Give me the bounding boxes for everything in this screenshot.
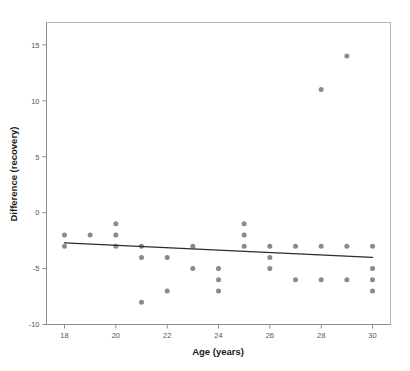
x-tick-label: 22 — [163, 331, 171, 340]
y-tick-label: -10 — [29, 320, 40, 329]
data-point — [190, 244, 195, 249]
data-point — [370, 244, 375, 249]
data-point — [319, 87, 324, 92]
data-point — [165, 288, 170, 293]
y-tick-label: 10 — [31, 97, 39, 106]
x-tick-label: 24 — [214, 331, 222, 340]
data-point — [190, 266, 195, 271]
data-point — [242, 244, 247, 249]
x-tick-label: 26 — [266, 331, 274, 340]
data-point — [113, 244, 118, 249]
y-tick-label: 15 — [31, 41, 39, 50]
data-point — [344, 54, 349, 59]
data-point — [139, 300, 144, 305]
y-axis-title: Difference (recovery) — [8, 126, 19, 221]
scatter-plot-figure: 151050-5-10 18202224262830 Age (years) D… — [0, 0, 410, 371]
data-point — [370, 277, 375, 282]
data-point — [293, 244, 298, 249]
x-axis-title: Age (years) — [192, 346, 244, 357]
y-tick-label: 5 — [35, 153, 39, 162]
data-point — [165, 255, 170, 260]
data-point — [113, 221, 118, 226]
data-point — [267, 244, 272, 249]
data-point — [267, 255, 272, 260]
data-point — [62, 244, 67, 249]
y-tick-label: 0 — [35, 208, 39, 217]
data-point — [293, 277, 298, 282]
data-point — [216, 266, 221, 271]
data-point — [319, 244, 324, 249]
data-point — [370, 288, 375, 293]
data-point — [88, 233, 93, 238]
x-tick-label: 28 — [317, 331, 325, 340]
data-point — [113, 233, 118, 238]
data-point — [242, 221, 247, 226]
data-point — [216, 277, 221, 282]
data-point — [62, 233, 67, 238]
data-point — [242, 233, 247, 238]
data-point — [344, 244, 349, 249]
data-point — [139, 255, 144, 260]
x-tick-label: 18 — [60, 331, 68, 340]
data-point — [344, 277, 349, 282]
data-point — [216, 288, 221, 293]
data-point — [319, 277, 324, 282]
data-point — [267, 266, 272, 271]
data-point — [370, 266, 375, 271]
y-tick-label: -5 — [33, 264, 40, 273]
x-tick-label: 30 — [368, 331, 376, 340]
x-tick-label: 20 — [112, 331, 120, 340]
plot-canvas: 151050-5-10 18202224262830 Age (years) D… — [0, 0, 410, 371]
